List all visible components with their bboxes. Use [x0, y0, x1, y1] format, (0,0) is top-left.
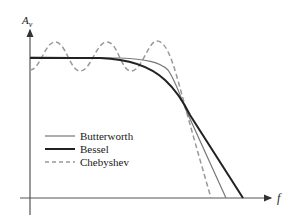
butterworth-curve: [30, 57, 226, 198]
y-axis-label: Av: [21, 14, 33, 29]
legend-chebyshev-label: Chebyshev: [80, 156, 129, 168]
bessel-curve: [30, 58, 243, 198]
legend-bessel-label: Bessel: [80, 143, 109, 155]
chebyshev-curve: [30, 41, 211, 198]
legend-butterworth-label: Butterworth: [80, 130, 134, 142]
filter-response-diagram: Av f Butterworth Bessel Chebyshev: [0, 0, 294, 224]
legend: Butterworth Bessel Chebyshev: [45, 130, 134, 168]
x-axis-label: f: [277, 191, 282, 205]
